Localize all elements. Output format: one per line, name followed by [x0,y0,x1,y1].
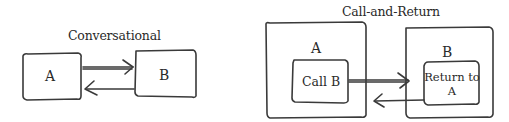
arrow-head-left [85,81,97,95]
arrow-return-to-a [375,100,424,101]
call-b-label: Call B [296,75,346,89]
return-to-a-label: Return to A [424,70,480,98]
return-to-a-line2: A [424,84,480,98]
call-and-return-title: Call-and-Return [342,4,440,19]
arrow-a-to-b [83,67,133,69]
call-return-outer-a [266,22,366,118]
conversational-title: Conversational [68,28,161,43]
conversational-box-a-label: A [45,68,55,84]
conversational-box-b-label: B [159,67,169,83]
call-return-box-a-label: A [311,40,321,56]
return-to-a-line1: Return to [424,70,480,84]
arrow-call-to-return [349,80,408,82]
call-return-box-b-label: B [442,44,452,60]
